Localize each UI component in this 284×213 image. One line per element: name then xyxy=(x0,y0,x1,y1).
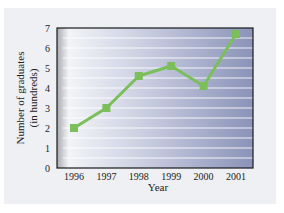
y-axis-label: Number of graduates (in hundreds) xyxy=(14,52,40,145)
y-axis-label-line1: Number of graduates xyxy=(14,52,26,145)
y-tick-label: 5 xyxy=(45,63,50,74)
data-point-marker xyxy=(200,82,208,90)
y-tick-label: 0 xyxy=(45,163,50,174)
data-point-marker xyxy=(135,72,143,80)
x-tick-label: 2001 xyxy=(226,171,246,182)
y-tick-label: 3 xyxy=(45,103,50,114)
data-point-marker xyxy=(102,104,110,112)
data-point-marker xyxy=(70,124,78,132)
x-tick-label: 1996 xyxy=(64,171,84,182)
x-tick-label: 1998 xyxy=(129,171,149,182)
y-tick-label: 2 xyxy=(45,123,50,134)
y-tick-label: 1 xyxy=(45,143,50,154)
data-point-marker xyxy=(232,30,240,38)
data-point-marker xyxy=(167,62,175,70)
y-axis-label-line2: (in hundreds) xyxy=(27,68,40,127)
line-chart: 01234567 199619971998199920002001 Year N… xyxy=(0,0,284,213)
y-tick-label: 6 xyxy=(45,43,50,54)
y-axis-ticks: 01234567 xyxy=(45,23,50,174)
y-tick-label: 7 xyxy=(45,23,50,34)
x-tick-label: 1997 xyxy=(96,171,116,182)
y-tick-label: 4 xyxy=(45,83,50,94)
x-axis-label: Year xyxy=(148,181,169,193)
x-tick-label: 2000 xyxy=(194,171,214,182)
